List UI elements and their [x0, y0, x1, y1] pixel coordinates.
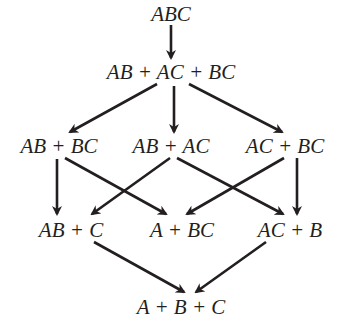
node-ab-ac-bc: AB + AC + BC	[107, 62, 235, 83]
node-ac-b: AC + B	[258, 220, 322, 241]
arrow-icon	[189, 84, 282, 132]
arrow-icon	[65, 158, 166, 214]
node-abc: ABC	[151, 4, 191, 25]
node-ab-ac: AB + AC	[133, 136, 210, 157]
node-a-bc: A + BC	[150, 220, 214, 241]
node-ac-bc: AC + BC	[246, 136, 324, 157]
arrow-icon	[196, 242, 266, 292]
arrow-icon	[92, 158, 170, 214]
node-a-b-c: A + B + C	[137, 297, 226, 318]
lattice-diagram: ABC AB + AC + BC AB + BC AB + AC AC + BC…	[0, 0, 340, 331]
node-ab-bc: AB + BC	[20, 136, 97, 157]
node-ab-c: AB + C	[39, 220, 103, 241]
arrow-icon	[70, 84, 157, 132]
edges-layer	[0, 0, 340, 331]
arrow-icon	[94, 242, 184, 292]
